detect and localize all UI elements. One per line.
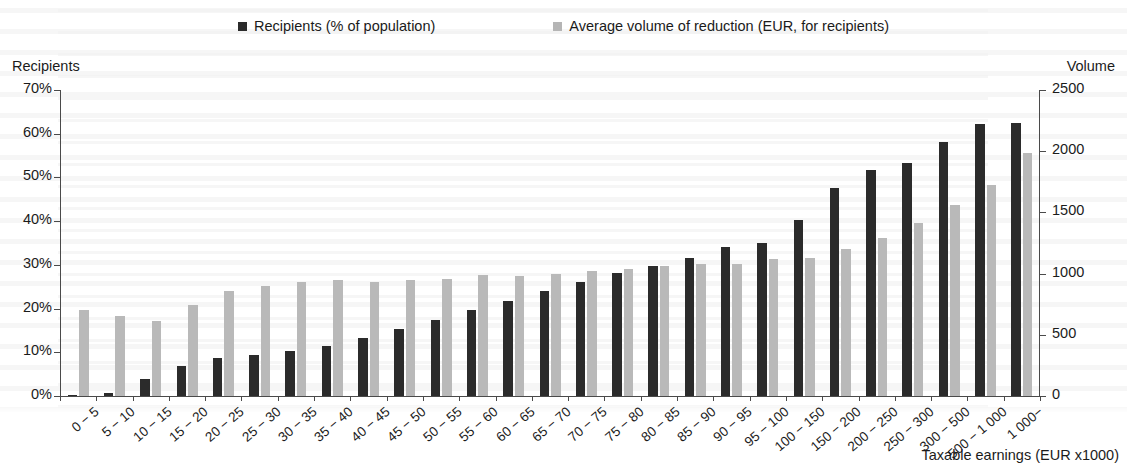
right-tick-label: 0 xyxy=(1052,386,1060,402)
bar-recipients xyxy=(757,243,767,396)
bar-average-volume xyxy=(624,269,634,396)
x-tick-mark xyxy=(967,396,968,401)
left-tick-label: 10% xyxy=(23,342,52,358)
x-tick-mark xyxy=(278,396,279,401)
x-tick-mark xyxy=(931,396,932,401)
right-tick-label: 2500 xyxy=(1052,80,1084,96)
chart-legend: Recipients (% of population) Average vol… xyxy=(0,14,1127,38)
x-tick-mark xyxy=(604,396,605,401)
x-tick-mark xyxy=(350,396,351,401)
bar-recipients xyxy=(685,258,695,396)
x-tick-mark xyxy=(641,396,642,401)
bar-average-volume xyxy=(261,286,271,396)
right-tick-mark xyxy=(1040,212,1046,213)
bar-recipients xyxy=(612,273,622,396)
bar-average-volume xyxy=(115,316,125,396)
bar-average-volume xyxy=(333,280,343,396)
bar-recipients xyxy=(939,142,949,396)
bar-average-volume xyxy=(79,310,89,396)
bar-recipients xyxy=(177,366,187,396)
bar-average-volume xyxy=(551,274,561,396)
bar-recipients xyxy=(68,395,78,396)
right-tick-label: 2000 xyxy=(1052,141,1084,157)
bar-recipients xyxy=(213,358,223,396)
left-tick-label: 30% xyxy=(23,255,52,271)
right-tick-mark xyxy=(1040,90,1046,91)
left-axis-title: Recipients xyxy=(12,58,80,74)
bar-average-volume xyxy=(370,282,380,396)
bar-recipients xyxy=(140,379,150,396)
bar-average-volume xyxy=(914,223,924,396)
x-tick-mark xyxy=(133,396,134,401)
bar-recipients xyxy=(648,266,658,396)
right-tick-label: 1000 xyxy=(1052,264,1084,280)
right-tick-mark xyxy=(1040,151,1046,152)
bar-average-volume xyxy=(696,264,706,396)
bar-recipients xyxy=(104,393,114,396)
right-tick-mark xyxy=(1040,274,1046,275)
bar-average-volume xyxy=(660,266,670,396)
right-axis-title: Volume xyxy=(1067,58,1115,74)
bar-recipients xyxy=(503,301,513,396)
left-tick-label: 50% xyxy=(23,167,52,183)
x-tick-mark xyxy=(423,396,424,401)
x-tick-mark xyxy=(713,396,714,401)
bar-average-volume xyxy=(406,280,416,396)
x-tick-mark xyxy=(314,396,315,401)
left-tick-label: 0% xyxy=(31,386,52,402)
bar-recipients xyxy=(431,320,441,396)
bar-average-volume xyxy=(769,259,779,396)
x-axis-line xyxy=(60,396,1040,397)
bar-recipients xyxy=(975,124,985,396)
legend-label-average-volume: Average volume of reduction (EUR, for re… xyxy=(569,18,889,34)
bar-average-volume xyxy=(805,258,815,396)
bar-recipients xyxy=(721,247,731,397)
bar-recipients xyxy=(576,282,586,396)
bar-recipients xyxy=(902,163,912,396)
bar-recipients xyxy=(285,351,295,396)
bar-average-volume xyxy=(478,275,488,396)
left-tick-label: 70% xyxy=(23,80,52,96)
x-tick-mark xyxy=(60,396,61,401)
bar-recipients xyxy=(467,310,477,396)
x-tick-mark xyxy=(532,396,533,401)
x-tick-mark xyxy=(750,396,751,401)
left-tick-label: 60% xyxy=(23,124,52,140)
plot-area xyxy=(60,90,1040,396)
bar-recipients xyxy=(866,170,876,396)
bar-recipients xyxy=(249,355,259,396)
x-tick-mark xyxy=(241,396,242,401)
bar-average-volume xyxy=(1023,153,1033,396)
right-tick-label: 500 xyxy=(1052,325,1076,341)
bar-recipients xyxy=(394,329,404,396)
bar-average-volume xyxy=(878,238,888,396)
bar-average-volume xyxy=(515,276,525,396)
bar-average-volume xyxy=(732,264,742,396)
x-tick-mark xyxy=(96,396,97,401)
x-tick-mark xyxy=(1040,396,1041,401)
legend-item-average-volume: Average volume of reduction (EUR, for re… xyxy=(553,18,889,34)
x-tick-mark xyxy=(1004,396,1005,401)
x-tick-mark xyxy=(677,396,678,401)
x-tick-mark xyxy=(895,396,896,401)
bar-average-volume xyxy=(442,279,452,396)
square-swatch-dark-icon xyxy=(238,22,247,31)
x-tick-mark xyxy=(859,396,860,401)
bar-recipients xyxy=(794,220,804,396)
bar-recipients xyxy=(1011,123,1021,396)
bar-average-volume xyxy=(224,291,234,396)
square-swatch-gray-icon xyxy=(553,22,562,31)
x-tick-mark xyxy=(387,396,388,401)
bar-average-volume xyxy=(587,271,597,396)
bar-recipients xyxy=(540,291,550,396)
bar-average-volume xyxy=(841,249,851,396)
bar-recipients xyxy=(830,188,840,396)
bar-recipients xyxy=(322,346,332,396)
bar-average-volume xyxy=(297,282,307,396)
dual-axis-bar-chart: Recipients (% of population) Average vol… xyxy=(0,0,1127,470)
x-tick-mark xyxy=(568,396,569,401)
bar-average-volume xyxy=(188,305,198,396)
right-tick-mark xyxy=(1040,335,1046,336)
bar-average-volume xyxy=(987,185,997,396)
x-tick-mark xyxy=(786,396,787,401)
